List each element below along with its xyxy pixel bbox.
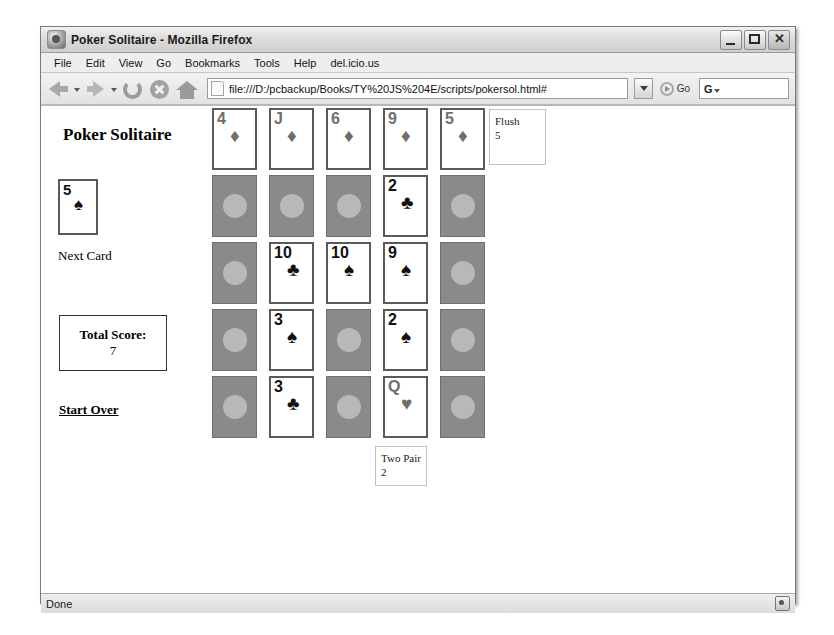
card-face-up[interactable]: 2♣ [383, 175, 428, 237]
card-face-up[interactable]: J♦ [269, 108, 314, 170]
card-cell-r2-c1[interactable] [212, 175, 257, 237]
hand-score-row-1: Flush 5 [489, 109, 546, 165]
card-face-up[interactable]: 3♣ [269, 376, 314, 438]
title-bar: Poker Solitaire - Mozilla Firefox ✕ [41, 27, 795, 53]
card-face-down[interactable] [212, 309, 257, 371]
card-face-down[interactable] [440, 309, 485, 371]
card-cell-r5-c4[interactable]: Q♥ [383, 376, 428, 438]
firefox-icon [47, 30, 66, 49]
card-cell-r5-c1[interactable] [212, 376, 257, 438]
card-face-up[interactable]: Q♥ [383, 376, 428, 438]
card-face-down[interactable] [440, 242, 485, 304]
next-card-label: Next Card [58, 248, 112, 264]
stop-icon[interactable] [148, 77, 172, 101]
search-input-value: G [704, 83, 713, 95]
menu-item-edit[interactable]: Edit [79, 56, 112, 70]
go-icon [660, 82, 674, 96]
card-face-down[interactable] [269, 175, 314, 237]
card-face-down[interactable] [326, 175, 371, 237]
card-face-down[interactable] [326, 376, 371, 438]
card-suit: ♠ [401, 327, 411, 346]
card-cell-r4-c5[interactable] [440, 309, 485, 371]
card-cell-r4-c4[interactable]: 2♠ [383, 309, 428, 371]
hand-score-col-4: Two Pair 2 [375, 446, 427, 486]
card-cell-r2-c2[interactable] [269, 175, 314, 237]
card-rank: J [274, 110, 283, 128]
card-face-up[interactable]: 2♠ [383, 309, 428, 371]
back-arrow-icon[interactable] [47, 77, 71, 101]
menu-item-view[interactable]: View [112, 56, 150, 70]
menu-item-help[interactable]: Help [287, 56, 324, 70]
menu-bar: File Edit View Go Bookmarks Tools Help d… [41, 53, 795, 73]
next-card-slot[interactable]: 5 ♠ [58, 179, 98, 235]
card-cell-r4-c3[interactable] [326, 309, 371, 371]
card-rank: 3 [274, 378, 283, 396]
card-cell-r2-c3[interactable] [326, 175, 371, 237]
card-cell-r5-c5[interactable] [440, 376, 485, 438]
card-cell-r3-c2[interactable]: 10♣ [269, 242, 314, 304]
menu-item-file[interactable]: File [47, 56, 79, 70]
menu-item-delicious[interactable]: del.icio.us [323, 56, 386, 70]
page-title: Poker Solitaire [63, 125, 171, 145]
card-cell-r1-c5[interactable]: 5♦ [440, 108, 485, 170]
card-cell-r2-c5[interactable] [440, 175, 485, 237]
menu-item-bookmarks[interactable]: Bookmarks [178, 56, 247, 70]
card-rank: Q [388, 378, 400, 396]
address-bar-dropdown-icon[interactable] [634, 78, 653, 99]
card-cell-r3-c3[interactable]: 10♠ [326, 242, 371, 304]
card-cell-r1-c2[interactable]: J♦ [269, 108, 314, 170]
card-face-up[interactable]: 5♦ [440, 108, 485, 170]
card-cell-r1-c1[interactable]: 4♦ [212, 108, 257, 170]
card-suit: ♦ [401, 126, 411, 145]
card-face-down[interactable] [326, 309, 371, 371]
search-input[interactable]: G [699, 78, 789, 99]
card-cell-r3-c1[interactable] [212, 242, 257, 304]
card-suit: ♥ [401, 394, 412, 413]
card-cell-r3-c5[interactable] [440, 242, 485, 304]
close-button[interactable]: ✕ [768, 30, 790, 50]
card-suit: ♠ [74, 195, 83, 214]
card-rank: 5 [445, 110, 454, 128]
next-card[interactable]: 5 ♠ [58, 179, 98, 235]
card-face-up[interactable]: 9♦ [383, 108, 428, 170]
card-face-down[interactable] [212, 242, 257, 304]
card-face-down[interactable] [440, 175, 485, 237]
card-face-down[interactable] [212, 175, 257, 237]
card-face-up[interactable]: 10♠ [326, 242, 371, 304]
card-cell-r1-c3[interactable]: 6♦ [326, 108, 371, 170]
home-icon[interactable] [175, 77, 199, 101]
card-cell-r4-c1[interactable] [212, 309, 257, 371]
start-over-link[interactable]: Start Over [59, 402, 119, 418]
hand-score-name: Two Pair [381, 451, 421, 465]
card-face-down[interactable] [440, 376, 485, 438]
card-face-up[interactable]: 10♣ [269, 242, 314, 304]
card-face-up[interactable]: 3♠ [269, 309, 314, 371]
go-button[interactable]: Go [660, 82, 690, 96]
card-cell-r5-c2[interactable]: 3♣ [269, 376, 314, 438]
card-cell-r1-c4[interactable]: 9♦ [383, 108, 428, 170]
card-suit: ♠ [401, 260, 411, 279]
card-rank: 4 [217, 110, 226, 128]
card-suit: ♠ [344, 260, 354, 279]
maximize-button[interactable] [744, 30, 766, 50]
menu-item-go[interactable]: Go [149, 56, 178, 70]
card-cell-r2-c4[interactable]: 2♣ [383, 175, 428, 237]
forward-arrow-icon[interactable] [84, 77, 108, 101]
back-history-dropdown-icon[interactable] [74, 79, 81, 99]
reload-icon[interactable] [121, 77, 145, 101]
card-cell-r3-c4[interactable]: 9♠ [383, 242, 428, 304]
card-face-up[interactable]: 6♦ [326, 108, 371, 170]
window-title: Poker Solitaire - Mozilla Firefox [71, 33, 720, 47]
menu-item-tools[interactable]: Tools [247, 56, 287, 70]
minimize-button[interactable] [720, 30, 742, 50]
forward-history-dropdown-icon[interactable] [111, 79, 118, 99]
card-face-down[interactable] [212, 376, 257, 438]
card-cell-r4-c2[interactable]: 3♠ [269, 309, 314, 371]
status-bar: Done [41, 593, 795, 613]
address-bar[interactable]: file:///D:/pcbackup/Books/TY%20JS%204E/s… [207, 78, 628, 99]
card-cell-r5-c3[interactable] [326, 376, 371, 438]
card-rank: 2 [388, 311, 397, 329]
total-score-value: 7 [110, 343, 117, 359]
card-face-up[interactable]: 9♠ [383, 242, 428, 304]
card-face-up[interactable]: 4♦ [212, 108, 257, 170]
